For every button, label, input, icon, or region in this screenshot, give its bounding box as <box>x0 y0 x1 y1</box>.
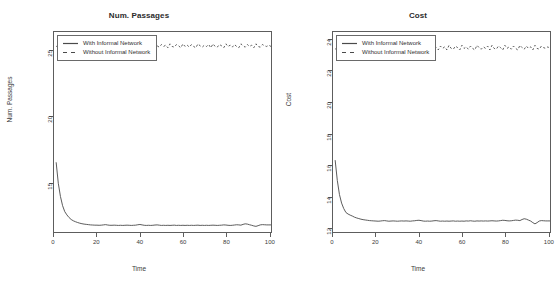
x-tick-mark <box>183 233 184 237</box>
x-tick-mark <box>375 233 376 237</box>
x-tick-label: 100 <box>538 239 557 245</box>
plot-lines-cost <box>333 32 550 232</box>
x-tick-mark <box>140 233 141 237</box>
x-tick-label: 100 <box>259 239 281 245</box>
legend-solid-line-icon <box>62 39 79 48</box>
x-tick-mark <box>462 233 463 237</box>
x-tick-mark <box>270 233 271 237</box>
x-tick-mark <box>53 233 54 237</box>
series-line <box>335 160 550 224</box>
series-line <box>56 162 271 226</box>
legend-dashed-line-icon <box>62 48 79 57</box>
x-tick-label: 60 <box>172 239 194 245</box>
figure-two-panel-plot: Num. Passages With Informal Network With… <box>0 0 557 285</box>
x-axis-label: Time <box>0 265 278 272</box>
x-tick-label: 40 <box>408 239 430 245</box>
x-tick-label: 0 <box>42 239 64 245</box>
y-axis-label: Cost <box>285 65 292 135</box>
plot-area-cost: With Informal Network Without Informal N… <box>332 31 551 233</box>
y-tick-label: 16 <box>319 160 329 170</box>
x-tick-label: 60 <box>451 239 473 245</box>
y-tick-label: 22 <box>319 65 329 75</box>
legend-label-dashed: Without Informal Network <box>83 48 150 57</box>
x-tick-label: 20 <box>364 239 386 245</box>
y-tick-label: 18 <box>319 129 329 139</box>
x-tick-mark <box>549 233 550 237</box>
y-tick-label: 20 <box>40 111 50 121</box>
x-tick-label: 80 <box>215 239 237 245</box>
x-axis-label: Time <box>279 265 557 272</box>
x-tick-mark <box>505 233 506 237</box>
plot-area-num-passages: With Informal Network Without Informal N… <box>53 31 272 233</box>
legend-dashed-line-icon <box>341 48 358 57</box>
x-tick-mark <box>332 233 333 237</box>
y-tick-label: 24 <box>319 34 329 44</box>
legend-label-solid: With Informal Network <box>362 39 421 48</box>
x-tick-label: 0 <box>321 239 343 245</box>
x-tick-label: 80 <box>494 239 516 245</box>
legend-item-dashed: Without Informal Network <box>62 48 150 57</box>
y-tick-label: 14 <box>319 192 329 202</box>
page-title: Cost <box>279 11 557 20</box>
y-tick-label: 25 <box>40 45 50 55</box>
legend-item-dashed: Without Informal Network <box>341 48 429 57</box>
panel-cost: Cost With Informal Network Without Infor… <box>279 0 557 285</box>
legend-item-solid: With Informal Network <box>341 39 429 48</box>
y-axis-label: Num. Passages <box>6 65 13 135</box>
legend-label-dashed: Without Informal Network <box>362 48 429 57</box>
y-tick-label: 12 <box>319 223 329 233</box>
x-tick-mark <box>419 233 420 237</box>
legend-label-solid: With Informal Network <box>83 39 142 48</box>
page-title: Num. Passages <box>0 11 278 20</box>
legend-solid-line-icon <box>341 39 358 48</box>
x-tick-mark <box>96 233 97 237</box>
legend-cost: With Informal Network Without Informal N… <box>336 35 436 61</box>
y-tick-label: 15 <box>40 178 50 188</box>
legend-num-passages: With Informal Network Without Informal N… <box>57 35 157 61</box>
x-tick-label: 40 <box>129 239 151 245</box>
x-tick-label: 20 <box>85 239 107 245</box>
x-tick-mark <box>226 233 227 237</box>
plot-lines-num-passages <box>54 32 271 232</box>
legend-item-solid: With Informal Network <box>62 39 150 48</box>
y-tick-label: 20 <box>319 97 329 107</box>
panel-num-passages: Num. Passages With Informal Network With… <box>0 0 278 285</box>
